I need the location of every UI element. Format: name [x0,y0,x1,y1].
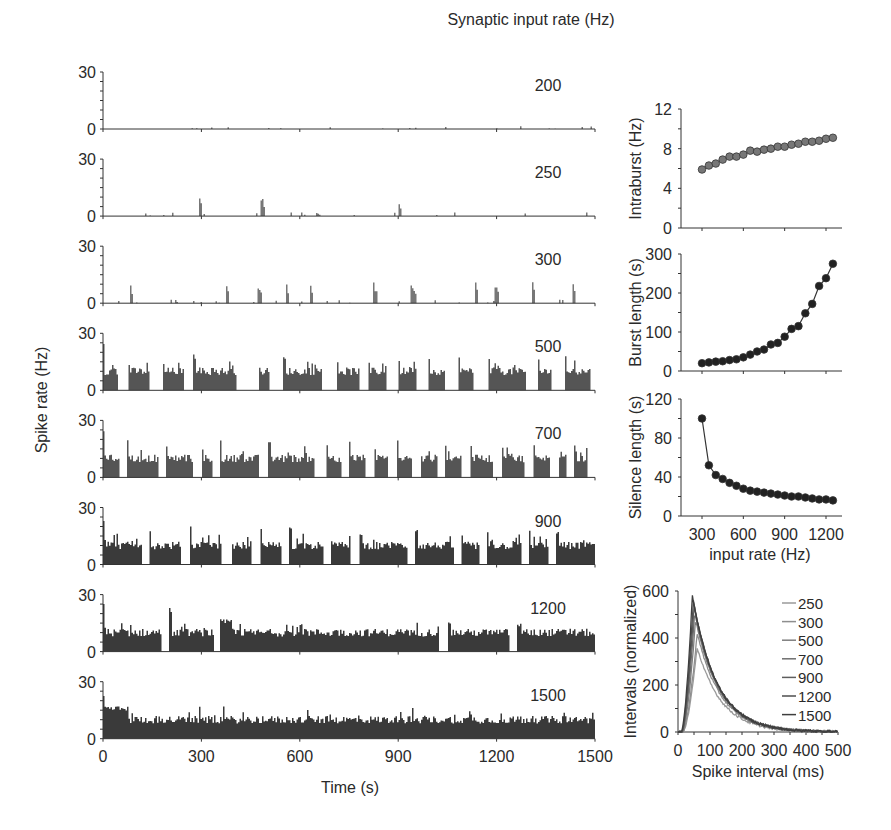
data-point [767,341,775,349]
data-point [740,485,748,493]
input-rate-label: 1500 [530,687,566,704]
ytick-label: 120 [645,391,672,408]
data-point [760,146,768,154]
data-point [698,415,706,423]
spike-rate-panel-250: 300250 [78,151,595,225]
ytick-label: 200 [645,285,672,302]
ytick-label: 100 [645,324,672,341]
legend-label: 900 [798,669,823,686]
ytick-label: 0 [87,208,96,225]
xlabel: Spike interval (ms) [692,763,824,780]
data-point [719,156,727,164]
data-point [815,137,823,145]
spike-rate-panel-700: 300700 [78,412,595,486]
ytick-label: 0 [663,363,672,380]
data-point [822,274,830,282]
data-point [802,494,810,502]
ylabel: Silence length (s) [627,396,644,520]
xlabel: input rate (Hz) [709,546,810,563]
data-point [781,492,789,500]
data-point [788,325,796,333]
time-xlabel: Time (s) [321,779,379,796]
ytick-label: 4 [663,180,672,197]
ytick-label: 0 [660,724,669,741]
xtick-label: 900 [771,526,798,543]
xtick-label: 400 [793,742,820,759]
ytick-label: 30 [78,64,96,81]
trend-line [702,419,833,501]
data-point [802,138,810,146]
xtick-label: 1200 [479,748,515,765]
data-point [781,333,789,341]
header-title: Synaptic input rate (Hz) [447,11,614,28]
legend-item-250: 250 [782,595,823,612]
data-point [829,260,837,268]
data-point [705,462,713,470]
spike-rate-bars [103,344,591,390]
legend-label: 700 [798,651,823,668]
spike-rate-panel-300: 300300 [78,238,595,312]
ytick-label: 0 [663,220,672,237]
xtick-label: 0 [99,748,108,765]
spike-rate-bars [103,604,595,652]
ytick-label: 30 [78,674,96,691]
data-point [802,309,810,317]
data-point [726,153,734,161]
spike-rate-bars [118,282,576,303]
data-point [808,138,816,146]
xtick-label: 200 [729,742,756,759]
data-point [795,140,803,148]
input-rate-label: 300 [535,251,562,268]
spike-rate-panel-500: 300500 [78,325,595,399]
data-point [733,356,741,364]
data-point [746,147,754,155]
data-point [733,153,741,161]
spike-rate-ylabel: Spike rate (Hz) [33,347,50,454]
ytick-label: 80 [654,430,672,447]
data-point [753,348,761,356]
input-rate-label: 500 [535,338,562,355]
input-rate-label: 700 [535,425,562,442]
ytick-label: 0 [87,469,96,486]
ytick-label: 0 [87,295,96,312]
ytick-label: 30 [78,500,96,517]
spike-rate-bars [103,431,588,477]
data-point [705,359,713,367]
data-point [753,148,761,156]
ytick-label: 40 [654,469,672,486]
data-point [795,322,803,330]
data-point [767,490,775,498]
data-point [788,493,796,501]
xtick-label: 600 [286,748,313,765]
xtick-label: 300 [188,748,215,765]
data-point [795,493,803,501]
summary-panel-intraburst-rate: 04812Intraburst (Hz) [627,101,842,237]
input-rate-label: 1200 [530,600,566,617]
ytick-label: 30 [78,412,96,429]
legend-item-500: 500 [782,632,823,649]
data-point [760,346,768,354]
xtick-label: 0 [674,742,683,759]
xtick-label: 900 [385,748,412,765]
summary-panel-silence-length: 04080120Silence length (s)3006009001200i… [627,391,844,563]
ytick-label: 0 [87,644,96,661]
spike-rate-panel-1200: 3001200 [78,587,595,661]
ytick-label: 0 [87,121,96,138]
data-point [705,162,713,170]
ytick-label: 0 [87,382,96,399]
ytick-label: 0 [87,731,96,748]
ylabel: Burst length (s) [627,258,644,366]
ytick-label: 300 [645,246,672,263]
data-point [829,134,837,142]
xtick-label: 1500 [577,748,613,765]
legend-label: 1500 [798,707,831,724]
xtick-label: 600 [730,526,757,543]
spike-rate-panel-1500: 3001500030060090012001500 [78,674,613,765]
xtick-label: 500 [825,742,852,759]
legend-item-900: 900 [782,669,823,686]
spike-rate-panel-200: 300200 [78,64,595,138]
spike-rate-panels: 3002003002503003003005003007003009003001… [78,64,613,765]
spike-rate-bars [103,696,595,739]
data-point [815,496,823,504]
legend-label: 250 [798,595,823,612]
